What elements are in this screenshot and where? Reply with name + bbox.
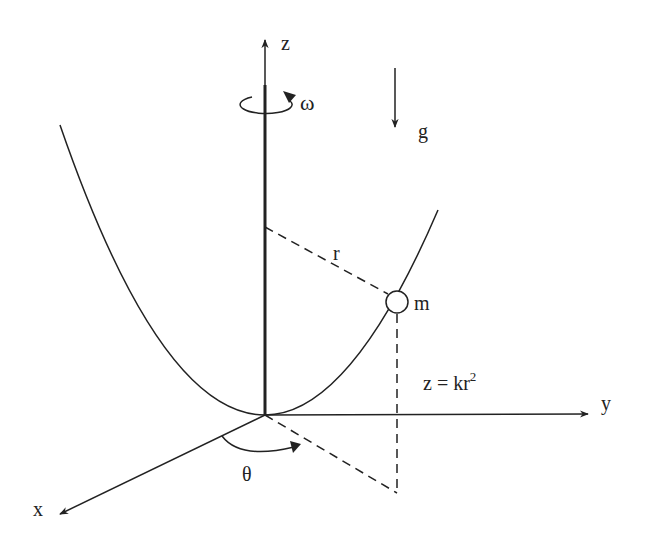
equation-label: z = kr2 <box>423 369 476 394</box>
omega-label: ω <box>300 90 314 115</box>
radius-dashed-line <box>265 227 388 294</box>
horizontal-projection-line <box>265 415 397 493</box>
mass-bead <box>386 291 408 313</box>
z-axis-label: z <box>281 32 290 54</box>
equation-exponent: 2 <box>470 369 477 384</box>
y-axis <box>265 414 588 415</box>
rotating-parabola-diagram: z ω g r m z = kr2 y x θ <box>0 0 645 547</box>
theta-arc-icon <box>222 436 301 453</box>
y-axis-label: y <box>601 392 611 415</box>
equation-main: z = kr <box>423 372 470 394</box>
parabola-wire <box>60 125 438 415</box>
gravity-label: g <box>418 120 428 143</box>
x-axis-label: x <box>33 498 43 520</box>
radius-label: r <box>333 242 340 264</box>
theta-label: θ <box>242 463 252 485</box>
mass-label: m <box>414 292 430 314</box>
omega-rotation-icon <box>240 91 296 114</box>
x-axis <box>60 415 265 514</box>
